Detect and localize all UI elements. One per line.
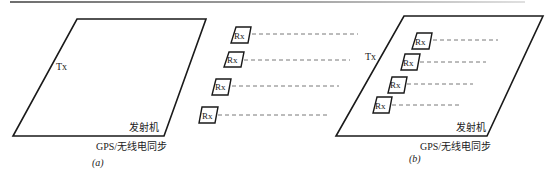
rx-label: Rx [234,31,245,41]
tx-label-b: Tx [365,51,376,62]
panel-b: Tx 发射机 GPS/无线电同步 (b) Rx Rx Rx Rx [336,16,543,165]
caption-a: (a) [92,157,104,169]
receiver-a-1: Rx [231,27,358,43]
receiver-a-3: Rx [212,79,339,95]
rx-label: Rx [403,58,414,68]
panel-a: Tx 发射机 GPS/无线电同步 (a) [13,19,206,169]
rx-label: Rx [202,111,213,121]
rx-label: Rx [390,80,401,90]
transmitter-label-b: 发射机 [456,121,486,133]
transmitter-label-a: 发射机 [129,121,159,133]
transmitter-plane-b [336,16,543,136]
transmitter-plane-a [13,19,206,136]
caption-b: (b) [409,153,421,165]
receiver-a-4: Rx [199,107,327,123]
receiver-b-4: Rx [373,97,460,113]
sync-label-b: GPS/无线电同步 [420,140,491,152]
top-rule [10,1,525,3]
receiver-b-2: Rx [401,54,486,70]
diagram-canvas: Tx 发射机 GPS/无线电同步 (a) Rx Rx Rx Rx Tx [0,0,556,173]
tx-label-a: Tx [56,61,67,72]
rx-label: Rx [215,82,226,92]
rx-label: Rx [415,37,426,47]
receiver-a-2: Rx [224,52,350,67]
sync-label-a: GPS/无线电同步 [96,140,167,152]
rx-label: Rx [227,55,238,65]
receiver-b-3: Rx [388,77,473,93]
receiver-b-1: Rx [412,33,498,49]
rx-label: Rx [375,101,386,111]
receivers-a: Rx Rx Rx Rx [199,27,358,123]
